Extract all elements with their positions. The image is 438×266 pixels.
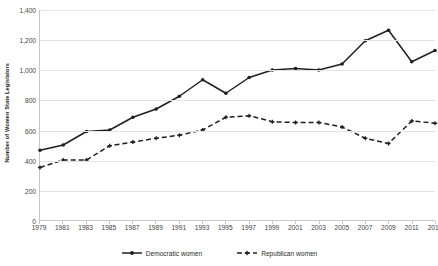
gridline xyxy=(40,100,435,101)
y-axis-tick-label: 1,200 xyxy=(10,37,36,44)
line-chart: Number of Women State Legislators 020040… xyxy=(0,0,438,266)
y-axis-tick-label: 800 xyxy=(10,97,36,104)
x-axis-tick-label: 1987 xyxy=(125,224,140,231)
data-point xyxy=(247,76,251,80)
gridline xyxy=(40,70,435,71)
data-point xyxy=(201,78,205,82)
plot-area xyxy=(39,10,435,221)
x-axis-tick-label: 1985 xyxy=(102,224,117,231)
data-point xyxy=(433,121,437,125)
data-point xyxy=(177,133,181,137)
data-point xyxy=(247,114,251,118)
chart-legend: Democratic womenRepublican women xyxy=(0,246,438,260)
x-axis-tick-label: 1997 xyxy=(241,224,256,231)
data-point xyxy=(317,120,321,124)
data-point xyxy=(433,49,437,53)
data-point xyxy=(386,141,390,145)
data-point xyxy=(38,165,42,169)
data-point xyxy=(38,148,42,152)
x-axis-tick-label: 2005 xyxy=(334,224,349,231)
data-point xyxy=(387,28,391,32)
x-axis-tick-label: 2001 xyxy=(288,224,303,231)
x-axis-tick-label: 1993 xyxy=(195,224,210,231)
data-point xyxy=(224,91,228,95)
legend-item-label: Republican women xyxy=(261,250,317,257)
data-point xyxy=(410,60,414,64)
data-point xyxy=(293,120,297,124)
x-axis-tick-label: 1989 xyxy=(148,224,163,231)
series-line-1 xyxy=(40,30,435,150)
legend-item-2[interactable]: Republican women xyxy=(236,249,317,257)
gridline xyxy=(40,40,435,41)
x-axis-tick-label: 2013 xyxy=(428,224,438,231)
gridline xyxy=(40,191,435,192)
data-point xyxy=(61,143,65,147)
series-overlay xyxy=(40,10,435,220)
x-axis-tick-label: 2009 xyxy=(381,224,396,231)
x-axis-tick-label: 2003 xyxy=(311,224,326,231)
solid-line-with-marker-icon xyxy=(121,249,143,257)
x-axis-tick-label: 1995 xyxy=(218,224,233,231)
gridline xyxy=(40,161,435,162)
x-axis-tick-label: 1999 xyxy=(265,224,280,231)
legend-item-1[interactable]: Democratic women xyxy=(121,249,202,257)
x-axis-tick-label: 1981 xyxy=(55,224,70,231)
x-axis-tick-label: 2011 xyxy=(405,224,419,231)
y-axis-tick-label: 1,000 xyxy=(10,67,36,74)
x-axis-tick-label: 1983 xyxy=(78,224,93,231)
data-point xyxy=(270,120,274,124)
y-axis-tick-label: 600 xyxy=(10,127,36,134)
x-axis-tick-label: 1991 xyxy=(171,224,186,231)
data-point xyxy=(178,94,182,98)
dashed-line-with-marker-icon xyxy=(236,249,258,257)
data-point xyxy=(154,136,158,140)
y-axis-tick-label: 200 xyxy=(10,187,36,194)
data-point xyxy=(131,140,135,144)
y-axis-tick-label: 1,400 xyxy=(10,7,36,14)
data-point xyxy=(340,62,344,66)
y-axis-tick-label: 400 xyxy=(10,157,36,164)
data-point xyxy=(131,115,135,119)
x-axis-tick-label: 1979 xyxy=(32,224,47,231)
gridline xyxy=(40,10,435,11)
legend-item-label: Democratic women xyxy=(146,250,202,257)
x-axis-tick-label: 2007 xyxy=(358,224,373,231)
x-axis-tick-labels: 1979198119831985198719891991199319951997… xyxy=(39,224,435,238)
data-point xyxy=(154,107,158,111)
gridline xyxy=(40,131,435,132)
